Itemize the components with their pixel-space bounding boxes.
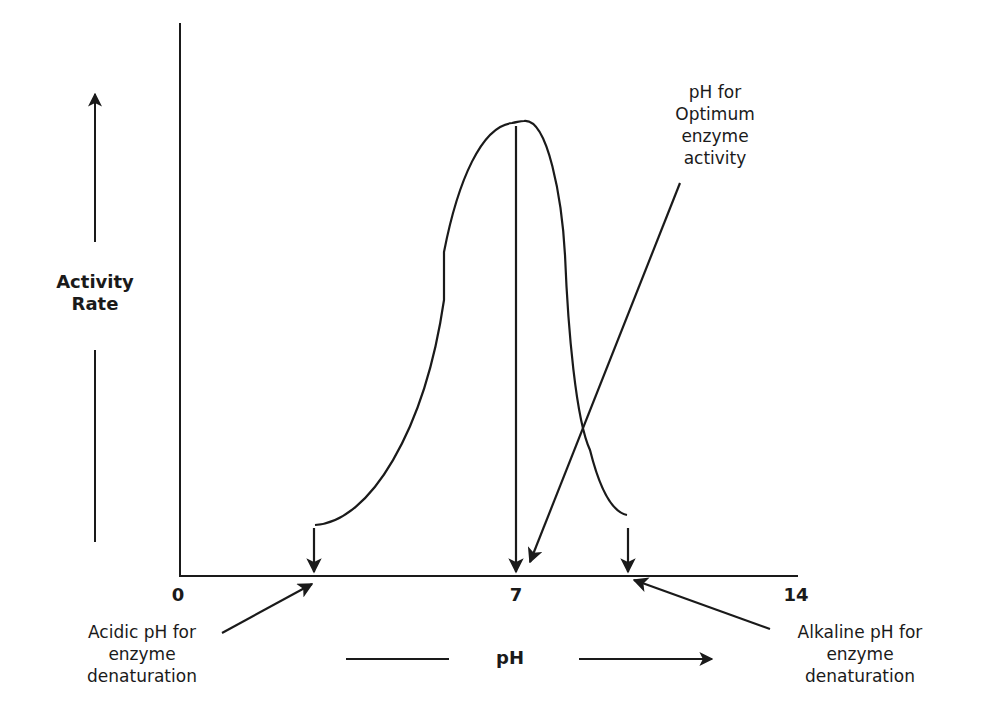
y-axis-label-line1: Activity <box>40 271 150 293</box>
optimum-pointer-arrow-icon <box>530 183 680 562</box>
alkaline-line3: denaturation <box>770 665 950 687</box>
optimum-line4: activity <box>655 147 775 169</box>
alkaline-pointer-arrow-icon <box>634 580 770 629</box>
diagram-canvas <box>0 0 984 726</box>
acidic-line3: denaturation <box>62 665 222 687</box>
x-tick-7: 7 <box>500 584 532 606</box>
x-tick-0: 0 <box>162 584 194 606</box>
optimum-line2: Optimum <box>655 103 775 125</box>
y-axis-label: Activity Rate <box>40 271 150 315</box>
x-tick-14: 14 <box>774 584 818 606</box>
alkaline-line1: Alkaline pH for <box>770 621 950 643</box>
x-axis-label: pH <box>480 647 540 669</box>
activity-curve <box>315 121 627 525</box>
acidic-annotation: Acidic pH for enzyme denaturation <box>62 621 222 687</box>
acidic-line2: enzyme <box>62 643 222 665</box>
y-axis-label-line2: Rate <box>40 293 150 315</box>
optimum-line3: enzyme <box>655 125 775 147</box>
optimum-line1: pH for <box>655 81 775 103</box>
acidic-pointer-arrow-icon <box>222 584 312 633</box>
alkaline-line2: enzyme <box>770 643 950 665</box>
acidic-line1: Acidic pH for <box>62 621 222 643</box>
optimum-annotation: pH for Optimum enzyme activity <box>655 81 775 169</box>
alkaline-annotation: Alkaline pH for enzyme denaturation <box>770 621 950 687</box>
